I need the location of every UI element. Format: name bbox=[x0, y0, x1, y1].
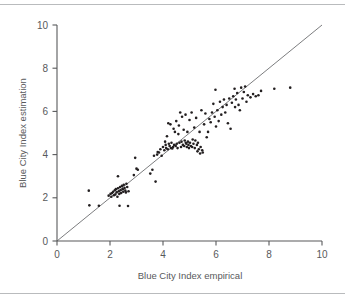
scatter-point bbox=[123, 187, 126, 190]
scatter-point bbox=[154, 180, 157, 183]
scatter-point bbox=[221, 106, 224, 109]
scatter-point bbox=[174, 131, 177, 134]
scatter-point bbox=[195, 117, 198, 120]
scatter-point bbox=[133, 174, 136, 177]
scatter-point bbox=[207, 131, 210, 134]
scatter-point bbox=[200, 109, 203, 112]
scatter-point bbox=[201, 149, 204, 152]
y-tick-label: 10 bbox=[37, 20, 49, 31]
y-tick-label: 8 bbox=[42, 63, 48, 74]
scatter-point bbox=[211, 111, 214, 114]
scatter-point bbox=[191, 138, 194, 141]
scatter-point bbox=[191, 146, 194, 149]
scatter-point bbox=[125, 191, 128, 194]
y-tick-label: 2 bbox=[42, 192, 48, 203]
x-tick-label: 6 bbox=[213, 249, 219, 260]
scatter-point bbox=[116, 195, 119, 198]
scatter-point bbox=[223, 98, 226, 101]
scatter-point bbox=[243, 91, 246, 94]
scatter-point bbox=[180, 140, 183, 143]
scatter-point bbox=[193, 126, 196, 129]
scatter-point bbox=[194, 139, 197, 142]
scatter-point bbox=[192, 143, 195, 146]
scatter-point bbox=[260, 90, 263, 93]
scatter-point bbox=[160, 154, 163, 157]
scatter-point bbox=[176, 147, 179, 150]
scatter-point bbox=[166, 135, 169, 138]
x-tick-label: 10 bbox=[316, 249, 328, 260]
scatter-point bbox=[88, 189, 91, 192]
scatter-point bbox=[180, 146, 183, 149]
scatter-point bbox=[187, 144, 190, 147]
scatter-point bbox=[232, 95, 235, 98]
scatter-point bbox=[273, 87, 276, 90]
scatter-point bbox=[233, 87, 236, 90]
scatter-point bbox=[213, 116, 216, 119]
scatter-point bbox=[198, 131, 201, 134]
scatter-point bbox=[216, 109, 219, 112]
x-tick-label: 4 bbox=[160, 249, 166, 260]
scatter-point bbox=[254, 95, 257, 98]
scatter-point bbox=[196, 150, 199, 153]
scatter-point bbox=[209, 121, 212, 124]
scatter-point bbox=[168, 145, 171, 148]
scatter-point bbox=[244, 85, 247, 88]
scatter-points bbox=[88, 85, 292, 207]
scatter-point bbox=[169, 123, 172, 126]
y-axis-ticks bbox=[53, 25, 58, 241]
scatter-point bbox=[175, 120, 178, 123]
scatter-point bbox=[215, 125, 218, 128]
scatter-point bbox=[208, 118, 211, 121]
scatter-point bbox=[179, 111, 182, 114]
scatter-point bbox=[164, 144, 167, 147]
y-axis-tick-labels: 0246810 bbox=[37, 20, 49, 247]
y-tick-label: 0 bbox=[42, 236, 48, 247]
scatter-point bbox=[201, 151, 204, 154]
scatter-point bbox=[199, 146, 202, 149]
scatter-point bbox=[197, 148, 200, 151]
scatter-point bbox=[225, 104, 228, 107]
scatter-point bbox=[228, 97, 231, 100]
scatter-point bbox=[118, 204, 121, 207]
scatter-point bbox=[88, 204, 91, 207]
scatter-point bbox=[122, 184, 125, 187]
scatter-point bbox=[217, 120, 220, 123]
scatter-point bbox=[114, 193, 117, 196]
scatter-point bbox=[127, 190, 130, 193]
scatter-point bbox=[153, 154, 156, 157]
scatter-point bbox=[203, 123, 206, 126]
scatter-point bbox=[164, 140, 167, 143]
x-tick-label: 0 bbox=[54, 249, 60, 260]
reference-line-segment bbox=[57, 25, 322, 241]
scatter-point bbox=[158, 151, 161, 154]
x-tick-label: 2 bbox=[107, 249, 113, 260]
x-axis-title: Blue City Index empirical bbox=[138, 270, 243, 281]
scatter-point bbox=[163, 149, 166, 152]
scatter-point bbox=[156, 153, 159, 156]
scatter-point bbox=[205, 136, 208, 139]
scatter-point bbox=[252, 93, 255, 96]
scatter-point bbox=[177, 133, 180, 136]
scatter-plot: 0246810 0246810 Blue City Index empirica… bbox=[0, 0, 345, 304]
scatter-point bbox=[98, 204, 101, 207]
scatter-point bbox=[224, 111, 227, 114]
scatter-point bbox=[178, 124, 181, 127]
scatter-point bbox=[126, 186, 129, 189]
scatter-point bbox=[151, 168, 154, 171]
scatter-point bbox=[110, 195, 113, 198]
scatter-point bbox=[184, 113, 187, 116]
scatter-point bbox=[245, 100, 248, 103]
scatter-point bbox=[212, 103, 215, 106]
scatter-point bbox=[134, 157, 137, 160]
scatter-point bbox=[183, 145, 186, 148]
y-tick-label: 4 bbox=[42, 149, 48, 160]
scatter-point bbox=[182, 128, 185, 131]
scatter-point bbox=[189, 141, 192, 144]
scatter-point bbox=[227, 122, 230, 125]
scatter-point bbox=[199, 152, 202, 155]
scatter-point bbox=[237, 104, 240, 107]
scatter-point bbox=[188, 119, 191, 122]
identity-reference-line bbox=[57, 25, 322, 241]
scatter-point bbox=[166, 148, 169, 151]
scatter-point bbox=[247, 94, 250, 97]
